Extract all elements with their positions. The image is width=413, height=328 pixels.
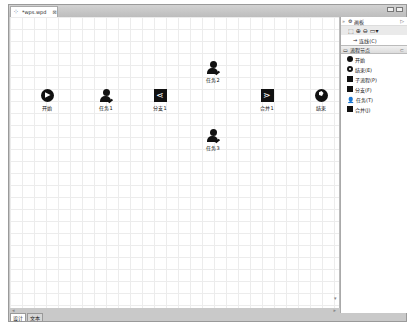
tab-text[interactable]: 文本 [27,313,43,322]
task-user-icon [207,61,220,74]
marquee-tool-icon[interactable]: ▭▾ [370,27,379,34]
subprocess-icon [347,76,353,82]
close-tab-icon[interactable]: ⊠ [52,9,56,15]
editor-mode-tabs: 设计 文本 [10,313,43,322]
connection-arrow-icon: → [353,37,357,43]
palette-drawer-nodes[interactable]: ▭ 流程节点 ⊂ [341,45,407,54]
palette-toolbar: ⬚ ⊕ ⊖ ▭▾ [341,26,407,35]
palette-item-start[interactable]: 开始 [341,54,407,64]
end-icon [347,66,353,72]
editor-tab-title: *wps.wpd [22,9,46,15]
node-label: 任务2 [206,76,219,83]
node-start[interactable]: 开始 [32,89,62,111]
zoom-out-icon[interactable]: ⊖ [363,27,368,34]
task-icon: 👤 [347,96,354,103]
palette-item-end[interactable]: 结束(E) [341,64,407,74]
palette-item-label: 分支(F) [355,86,372,93]
task-user-icon [207,129,220,142]
collapse-palette-icon[interactable]: » [342,18,345,24]
zoom-in-icon[interactable]: ⊕ [356,27,361,34]
editor-tab[interactable]: ⁘ *wps.wpd ⊠ [10,6,58,17]
palette-item-label: 合并(J) [355,106,370,113]
palette-item-label: 任务(T) [356,96,373,103]
fork-icon: ⋖ [154,89,167,102]
palette-header[interactable]: » ⚙ 画板 ▷ [341,17,407,26]
scroll-right-arrow[interactable]: ▸ [333,307,336,313]
vertical-scroll-arrow[interactable]: ▾ [334,295,337,301]
editor-tabbar: ⁘ *wps.wpd ⊠ [9,5,406,17]
minimize-button[interactable] [387,7,394,12]
node-label: 开始 [42,104,52,111]
connection-label: 连线(C) [359,37,376,44]
palette-connection[interactable]: → 连线(C) [341,35,407,45]
palette-expand-icon[interactable]: ▷ [400,18,404,24]
horizontal-scrollbar[interactable]: ◂ ▸ [10,308,340,313]
palette-icon: ⚙ [348,18,352,24]
palette-item-subprocess[interactable]: 子流程(P) [341,74,407,84]
task-user-icon [100,89,113,102]
start-icon [347,56,353,62]
node-fork1[interactable]: ⋖ 分支1 [145,89,175,111]
folder-icon: ▭ [343,47,348,53]
palette-item-join[interactable]: 合并(J) [341,104,407,114]
node-label: 结束 [316,104,326,111]
maximize-button[interactable] [396,7,403,12]
start-icon [41,89,54,102]
pin-icon[interactable]: ⊂ [400,47,404,53]
palette-item-label: 开始 [355,56,365,63]
node-label: 任务3 [206,144,219,151]
node-join1[interactable]: ⋗ 合并1 [252,89,282,111]
node-task3[interactable]: 任务3 [198,129,228,151]
end-icon [315,89,328,102]
palette-item-label: 子流程(P) [355,76,377,83]
palette-panel: » ⚙ 画板 ▷ ⬚ ⊕ ⊖ ▭▾ → 连线(C) ▭ 流程节点 ⊂ 开始 结束… [340,17,407,313]
fork-icon [347,86,353,92]
tab-design[interactable]: 设计 [10,313,26,322]
node-label: 任务1 [99,104,112,111]
node-end[interactable]: 结束 [306,89,336,111]
drawer-title: 流程节点 [350,46,370,53]
diagram-canvas[interactable]: 开始 任务1 ⋖ 分支1 任务2 ⋗ 合并1 结束 任务3 [10,17,340,308]
palette-item-task[interactable]: 👤 任务(T) [341,94,407,104]
select-tool-icon[interactable]: ⬚ [348,27,354,34]
node-label: 分支1 [153,104,166,111]
palette-item-fork[interactable]: 分支(F) [341,84,407,94]
node-label: 合并1 [260,104,273,111]
join-icon: ⋗ [261,89,274,102]
workflow-file-icon: ⁘ [13,9,20,16]
palette-title: 画板 [354,18,364,25]
window-controls [387,7,403,12]
node-task2[interactable]: 任务2 [198,61,228,83]
join-icon [347,106,353,112]
palette-item-label: 结束(E) [355,66,372,73]
node-task1[interactable]: 任务1 [91,89,121,111]
editor-window: ⁘ *wps.wpd ⊠ 开始 任务1 ⋖ 分支1 任务2 ⋗ 合并1 [8,4,407,322]
